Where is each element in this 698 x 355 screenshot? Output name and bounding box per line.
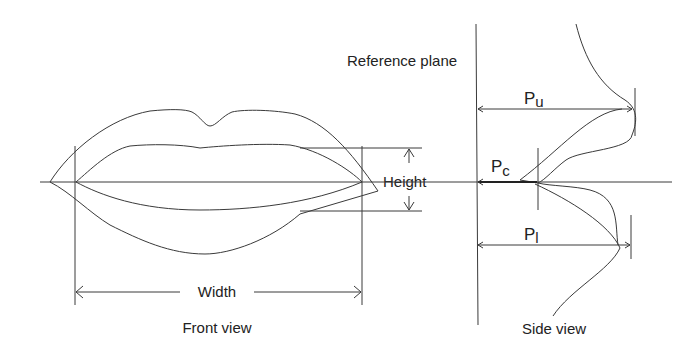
reference-plane-line [476, 24, 478, 325]
inner-upper-lip [76, 144, 362, 182]
lip-inner-profile [520, 109, 622, 183]
pu-label: Pu [524, 89, 544, 110]
pc-label: Pc [491, 157, 510, 179]
front-view-caption: Front view [182, 319, 251, 336]
width-label: Width [198, 283, 236, 300]
pl-label: Pl [524, 225, 539, 246]
inner-lower-lip [76, 182, 362, 210]
lip-lower-profile [535, 184, 620, 316]
lip-measurement-diagram: Height Width Front view Reference plane … [0, 0, 698, 355]
lip-profile [538, 24, 636, 245]
reference-plane-label: Reference plane [347, 52, 457, 69]
side-view-caption: Side view [522, 320, 586, 337]
front-view: Height Width Front view [40, 110, 427, 336]
